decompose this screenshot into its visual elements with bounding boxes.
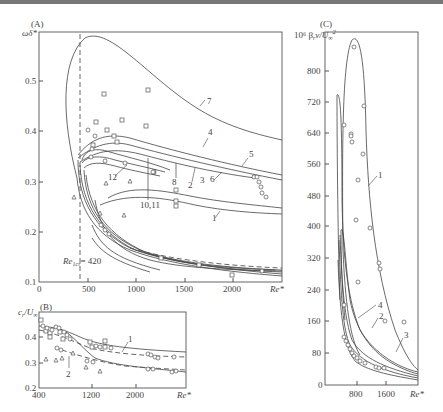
svg-text:8: 8 (172, 177, 177, 187)
svg-text:0.2: 0.2 (25, 227, 36, 237)
panel-c: (C) 10⁶ βrν/U∞2 800 720 640 560 480 400 … (294, 19, 424, 399)
svg-text:1: 1 (128, 334, 133, 344)
svg-text:400: 400 (307, 221, 321, 231)
svg-text:500: 500 (82, 284, 96, 294)
panel-b-xlabel: Re* (176, 390, 191, 400)
panel-c-xlabel: Re* (409, 389, 424, 399)
svg-text:800: 800 (349, 389, 363, 399)
svg-text:3: 3 (404, 330, 409, 340)
svg-text:3: 3 (200, 175, 205, 185)
panel-a-ylabel: ωδ* (22, 28, 38, 38)
panel-c-ylabel: 10⁶ βrν/U∞2 (294, 28, 337, 41)
svg-text:1: 1 (212, 213, 217, 223)
svg-text:0.3: 0.3 (25, 177, 37, 187)
svg-text:240: 240 (307, 285, 321, 295)
svg-text:10,11: 10,11 (140, 200, 160, 210)
svg-text:1: 1 (378, 170, 383, 180)
svg-text:0.4: 0.4 (25, 126, 37, 136)
svg-text:720: 720 (307, 97, 321, 107)
svg-text:12: 12 (108, 172, 117, 182)
panel-c-curve-labels: 1 4 2 3 (358, 170, 409, 352)
svg-text:320: 320 (307, 253, 321, 263)
svg-text:0: 0 (318, 380, 323, 390)
panel-b-ylabel: cr/U∞ (18, 307, 38, 318)
svg-text:400: 400 (32, 390, 46, 400)
panel-a-yticks: 0.5 0.4 0.3 0.2 0.1 (25, 76, 43, 287)
svg-text:160: 160 (307, 316, 321, 326)
svg-text:5: 5 (249, 149, 254, 159)
panel-a-xticks: 0 500 1000 1500 2000 Re* (37, 278, 284, 294)
panel-b-markers (39, 318, 178, 374)
panel-a-curve-labels: 7 4 5 6 3 1 2 8 9 10,11 12 (108, 96, 254, 223)
svg-text:560: 560 (307, 159, 321, 169)
svg-text:640: 640 (307, 128, 321, 138)
panel-b-label: (B) (40, 302, 52, 312)
svg-text:0: 0 (37, 284, 42, 294)
panel-a-frame (39, 32, 282, 282)
svg-text:1000: 1000 (127, 284, 146, 294)
svg-text:4: 4 (378, 300, 383, 310)
panel-b-xticks: 400 1200 2000 Re* (32, 384, 191, 400)
svg-text:0.1: 0.1 (25, 277, 36, 287)
svg-text:80: 80 (312, 348, 322, 358)
panel-c-markers (342, 45, 406, 370)
svg-text:7: 7 (207, 96, 212, 106)
svg-text:2000: 2000 (223, 284, 242, 294)
svg-text:2: 2 (379, 311, 384, 321)
figure-canvas: (A) ωδ* 0.5 0.4 0.3 0.2 0.1 0 500 1000 1… (0, 0, 443, 412)
panel-c-yticks: 800 720 640 560 480 400 320 240 160 80 0 (307, 66, 329, 390)
svg-text:1500: 1500 (175, 284, 194, 294)
svg-text:4: 4 (208, 127, 213, 137)
panel-c-xticks: 800 1600 Re* (349, 381, 424, 399)
svg-text:0.4: 0.4 (25, 332, 37, 342)
panel-c-curves (337, 39, 418, 380)
svg-text:0.3: 0.3 (25, 358, 37, 368)
panel-a-xlabel: Re* (269, 284, 284, 294)
svg-text:2000: 2000 (126, 390, 145, 400)
svg-text:1600: 1600 (377, 389, 396, 399)
panel-b: (B) cr/U∞ 0.4 0.3 0.2 400 1200 2000 Re* … (18, 302, 191, 400)
panel-b-yticks: 0.4 0.3 0.2 (25, 332, 43, 393)
svg-text:800: 800 (307, 66, 321, 76)
svg-text:6: 6 (210, 174, 215, 184)
svg-text:0.5: 0.5 (25, 76, 37, 86)
re-critical-label: Re1cr= 420 (62, 256, 102, 267)
svg-text:1200: 1200 (82, 390, 101, 400)
panel-a: (A) ωδ* 0.5 0.4 0.3 0.2 0.1 0 500 1000 1… (22, 19, 284, 294)
panel-c-label: (C) (320, 19, 332, 29)
svg-text:480: 480 (307, 191, 321, 201)
svg-text:2: 2 (66, 369, 71, 379)
